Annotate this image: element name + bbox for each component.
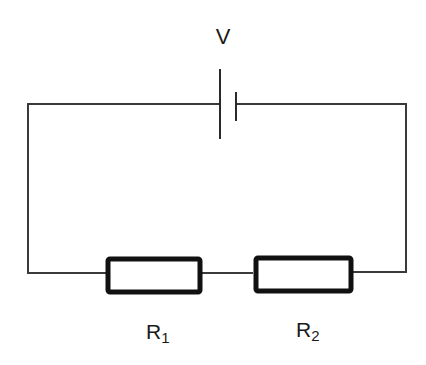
wires <box>28 104 406 273</box>
resistor-r1-label: R1 <box>146 320 170 346</box>
resistor-r2 <box>256 258 351 291</box>
wire-top-left <box>28 104 220 273</box>
circuit-diagram: V R1 R2 <box>0 0 426 365</box>
battery <box>220 69 236 139</box>
battery-label: V <box>216 24 231 49</box>
resistor-r2-label: R2 <box>296 318 320 344</box>
resistor-r1 <box>108 259 200 292</box>
wire-top-right <box>236 104 406 272</box>
